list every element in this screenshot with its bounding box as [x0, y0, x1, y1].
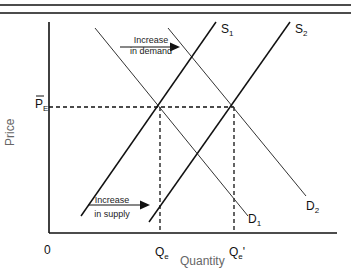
- supply-shift-label: Increase in supply: [88, 195, 136, 220]
- x-axis-title: Quantity: [180, 255, 225, 267]
- label-d1: D1: [248, 213, 261, 228]
- qe-label: Qe: [155, 246, 169, 261]
- supply-arrowhead-icon: [140, 201, 150, 210]
- label-s2: S2: [295, 23, 307, 38]
- y-axis-title: Price: [4, 119, 16, 146]
- label-d2: D2: [306, 200, 319, 215]
- qe-prime-label: Qe': [229, 246, 245, 261]
- demand-shift-label: Increase in demand: [122, 35, 180, 57]
- label-s1: S1: [221, 23, 233, 38]
- demand-curve-d2: [168, 28, 306, 196]
- price-equilibrium-label: PE: [35, 98, 48, 113]
- origin-label: 0: [44, 244, 51, 256]
